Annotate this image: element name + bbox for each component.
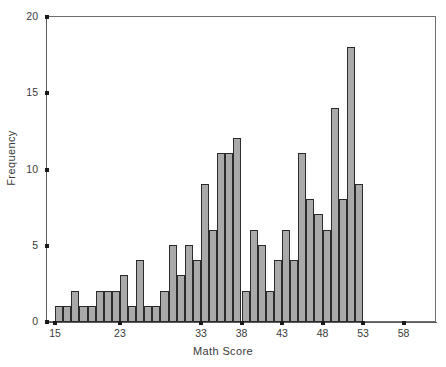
histogram-bar <box>347 47 355 323</box>
histogram-bar <box>185 245 193 322</box>
histogram-bar <box>282 230 290 323</box>
y-tick-label: 0 <box>12 315 38 327</box>
histogram-bar <box>290 260 298 322</box>
histogram-bar <box>136 260 144 322</box>
y-tick-mark <box>45 15 49 19</box>
histogram-bar <box>331 108 339 323</box>
histogram-bar <box>63 306 71 322</box>
x-tick-label: 23 <box>107 327 133 339</box>
x-tick-label: 15 <box>42 327 68 339</box>
x-tick-mark <box>53 321 57 325</box>
histogram-bar <box>160 291 168 323</box>
histogram-bar <box>217 153 225 322</box>
histogram-bar <box>71 291 79 323</box>
x-tick-mark <box>321 321 325 325</box>
x-tick-mark <box>402 321 406 325</box>
histogram-bar <box>258 245 266 322</box>
histogram-bar <box>274 260 282 322</box>
histogram-bar <box>120 275 128 322</box>
y-tick-mark <box>45 91 49 95</box>
histogram-bar <box>152 306 160 322</box>
histogram-bar <box>169 245 177 322</box>
x-tick-label: 33 <box>188 327 214 339</box>
histogram-bar <box>233 138 241 322</box>
x-tick-mark <box>199 321 203 325</box>
x-axis-title: Math Score <box>0 345 446 357</box>
y-tick-label: 15 <box>12 86 38 98</box>
x-tick-label: 58 <box>391 327 417 339</box>
x-tick-label: 43 <box>269 327 295 339</box>
histogram-bar <box>298 153 306 322</box>
x-tick-mark <box>118 321 122 325</box>
x-tick-mark <box>280 321 284 325</box>
histogram-bar <box>250 230 258 323</box>
y-tick-label: 5 <box>12 239 38 251</box>
histogram-bar <box>339 199 347 322</box>
histogram-bar <box>177 275 185 322</box>
histogram-bar <box>96 291 104 323</box>
histogram-bar <box>314 214 322 322</box>
histogram-bar <box>128 306 136 322</box>
y-axis-title: Frequency <box>5 118 17 198</box>
x-tick-label: 38 <box>229 327 255 339</box>
bars-layer <box>47 17 436 322</box>
histogram-bar <box>104 291 112 323</box>
y-tick-mark <box>45 320 49 324</box>
histogram-bar <box>112 291 120 323</box>
y-tick-label: 20 <box>12 10 38 22</box>
histogram-bar <box>79 306 87 322</box>
histogram-bar <box>225 153 233 322</box>
x-tick-mark <box>361 321 365 325</box>
histogram-bar <box>55 306 63 322</box>
x-tick-label: 48 <box>310 327 336 339</box>
x-tick-mark <box>240 321 244 325</box>
histogram-bar <box>193 260 201 322</box>
x-tick-label: 53 <box>350 327 376 339</box>
histogram-bar <box>242 291 250 323</box>
histogram-bar <box>144 306 152 322</box>
histogram-chart: 05101520 1523333843485358 Frequency Math… <box>0 0 446 367</box>
histogram-bar <box>306 199 314 322</box>
y-tick-mark <box>45 244 49 248</box>
histogram-bar <box>209 230 217 323</box>
histogram-bar <box>201 184 209 322</box>
histogram-bar <box>323 230 331 323</box>
histogram-bar <box>355 184 363 322</box>
y-tick-mark <box>45 168 49 172</box>
histogram-bar <box>266 291 274 323</box>
histogram-bar <box>88 306 96 322</box>
